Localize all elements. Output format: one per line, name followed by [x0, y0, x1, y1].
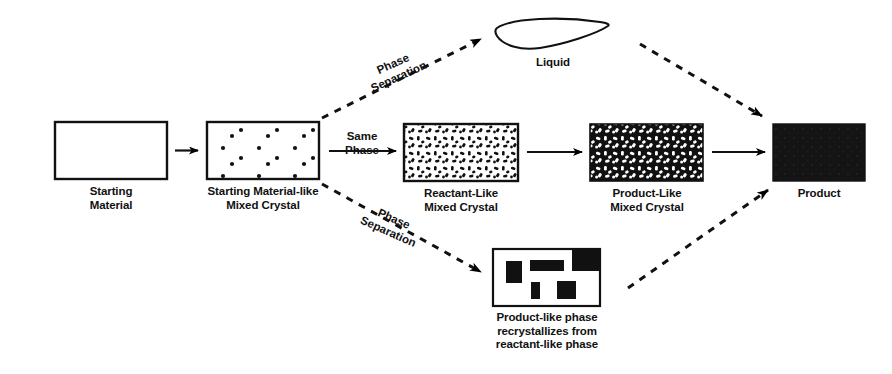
label-product-like-mixed-crystal: Product-Like Mixed Crystal — [582, 187, 712, 214]
reaction-pathway-diagram: Starting Material Starting Material-like… — [0, 0, 892, 374]
label-product-like-phase: Product-like phase recrystallizes from r… — [471, 311, 623, 352]
label-liquid: Liquid — [508, 56, 598, 70]
label-product: Product — [773, 187, 865, 201]
node-reactant-like-mixed-crystal — [404, 124, 518, 181]
node-product — [773, 124, 865, 181]
edge-label-same-phase: Same Phase — [330, 130, 394, 157]
node-product-like-mixed-crystal — [590, 124, 703, 181]
node-starting-material — [55, 122, 167, 179]
label-starting-material: Starting Material — [55, 185, 167, 212]
node-product-like-phase — [493, 249, 600, 306]
label-starting-material-like-mixed-crystal: Starting Material-like Mixed Crystal — [178, 185, 348, 212]
node-liquid — [496, 19, 609, 49]
node-starting-material-like-mixed-crystal — [207, 122, 319, 179]
edge-liquid-to-product — [640, 44, 762, 116]
label-reactant-like-mixed-crystal: Reactant-Like Mixed Crystal — [396, 187, 526, 214]
